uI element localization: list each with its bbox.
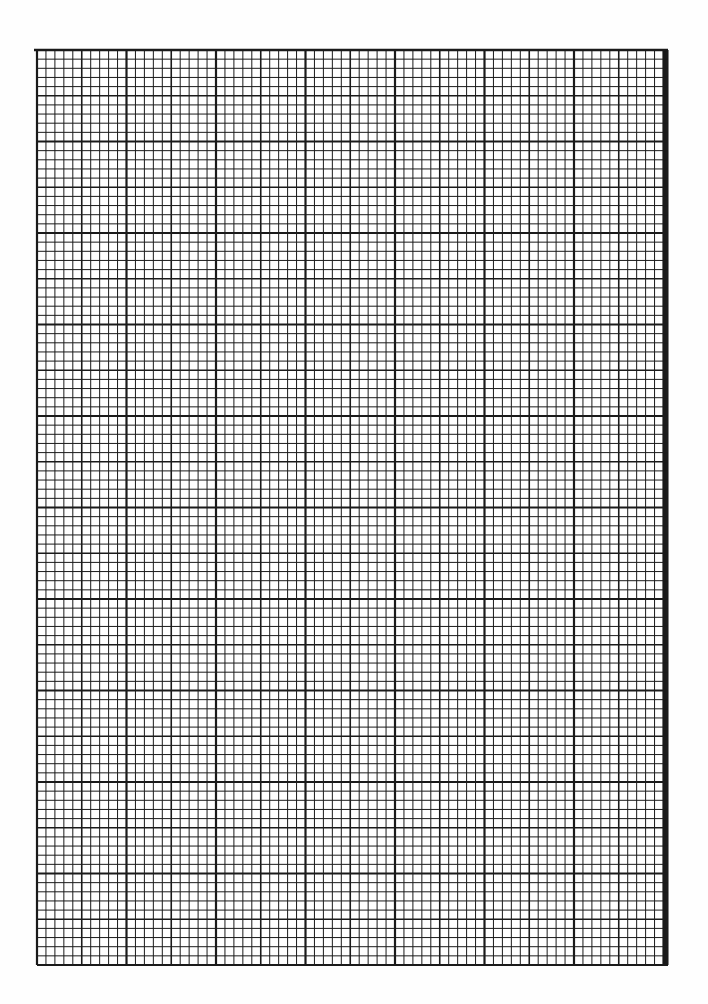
grid-lines [0, 0, 708, 1004]
graph-paper-sheet [0, 0, 708, 1004]
